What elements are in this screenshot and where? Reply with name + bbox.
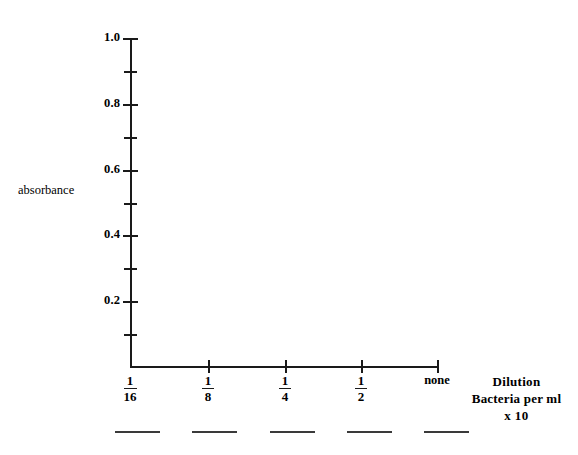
x-tick — [208, 360, 210, 373]
x-tick — [285, 360, 287, 373]
y-tick-major — [123, 235, 138, 237]
fraction-numerator: 1 — [124, 374, 137, 389]
blank-answer-line[interactable] — [347, 431, 392, 433]
x-axis-title-bacteria-per-ml: Bacteria per ml — [455, 390, 578, 407]
fraction-numerator: 1 — [279, 374, 292, 389]
blank-answer-line[interactable] — [424, 431, 469, 433]
x-axis-title-block: Dilution Bacteria per ml x 10 — [455, 373, 578, 424]
y-tick-label: 0.6 — [84, 163, 120, 176]
fraction-denominator: 8 — [202, 389, 215, 404]
fraction-denominator: 2 — [355, 389, 368, 404]
fraction-1-8: 1 8 — [202, 374, 215, 403]
y-tick-label: 1.0 — [84, 31, 120, 44]
y-tick-minor — [124, 268, 137, 270]
y-tick-minor — [124, 334, 137, 336]
y-tick-major — [123, 301, 138, 303]
fraction-denominator: 4 — [279, 389, 292, 404]
x-tick-label-1-2: 1 2 — [334, 374, 388, 404]
blank-answer-line[interactable] — [192, 431, 237, 433]
fraction-numerator: 1 — [355, 374, 368, 389]
absorbance-dilution-graph: absorbance 1.0 0.8 0.6 0.4 0.2 1 16 1 — [0, 0, 578, 455]
x-tick-label-1-4: 1 4 — [258, 374, 312, 404]
blank-answer-line[interactable] — [115, 431, 160, 433]
x-tick-label-1-16: 1 16 — [103, 374, 157, 404]
fraction-denominator: 16 — [124, 389, 137, 404]
blank-answer-line[interactable] — [270, 431, 315, 433]
y-axis-title: absorbance — [18, 184, 74, 197]
x-tick-label-text: none — [424, 373, 450, 387]
y-tick-minor — [124, 203, 137, 205]
fraction-numerator: 1 — [202, 374, 215, 389]
x-tick-label-1-8: 1 8 — [181, 374, 235, 404]
y-tick-minor — [124, 71, 137, 73]
x-axis-title-multiplier: x 10 — [455, 407, 578, 424]
fraction-1-16: 1 16 — [124, 374, 137, 403]
x-tick — [361, 360, 363, 373]
y-tick-major — [123, 170, 138, 172]
y-tick-label: 0.8 — [84, 97, 120, 110]
x-axis-line — [130, 366, 438, 368]
fraction-1-4: 1 4 — [279, 374, 292, 403]
y-tick-label: 0.4 — [84, 228, 120, 241]
y-tick-minor — [124, 137, 137, 139]
x-tick — [437, 360, 439, 373]
x-axis-title-dilution: Dilution — [455, 373, 578, 390]
y-tick-major — [123, 104, 138, 106]
fraction-1-2: 1 2 — [355, 374, 368, 403]
y-tick-label: 0.2 — [84, 294, 120, 307]
y-tick-major — [123, 38, 138, 40]
